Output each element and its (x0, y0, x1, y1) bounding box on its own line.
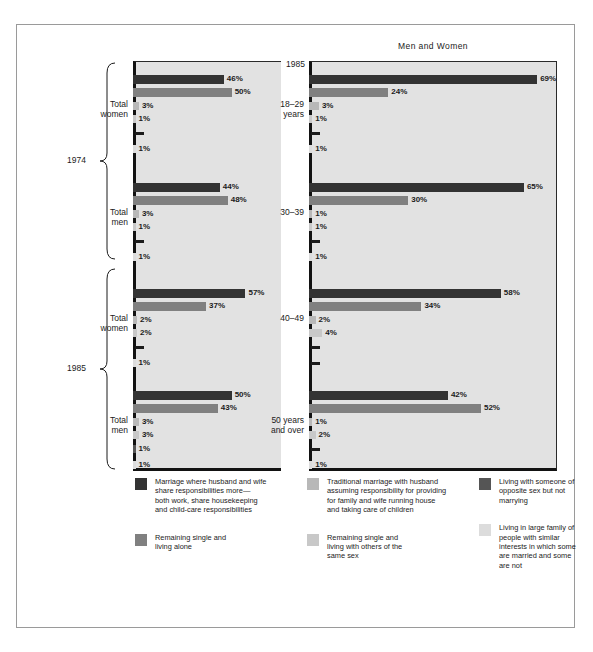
bar-row: 48% (133, 196, 281, 205)
bar (309, 289, 501, 298)
legend-column-3: Living with someone of opposite sex but … (479, 477, 579, 586)
bar-row: 1% (309, 253, 557, 261)
bar-row: 1% (309, 461, 557, 469)
bar-group: 50%43%3%3%1%1% (133, 391, 281, 481)
bar (309, 316, 316, 324)
legend-label: Living with someone of opposite sex but … (499, 477, 579, 505)
era-brace-1985: 1985 (69, 267, 129, 471)
bar-row: 24% (309, 88, 557, 97)
bar (309, 404, 481, 413)
bar-value-label: 69% (540, 74, 556, 83)
legend-swatch-icon (479, 478, 491, 490)
bar (133, 145, 136, 153)
panel-right-year: 1985 (286, 59, 305, 69)
bar-value-label: 3% (142, 430, 154, 439)
zero-dash-mark (135, 240, 144, 243)
bar-row: 46% (133, 75, 281, 84)
bar (133, 391, 232, 400)
bar (133, 88, 232, 97)
bar-row: 2% (309, 431, 557, 439)
bar (133, 183, 220, 192)
era-label-1974: 1974 (67, 155, 86, 165)
bar-value-label: 3% (142, 417, 154, 426)
bar-row: 1% (309, 210, 557, 218)
bar-value-label: 58% (504, 288, 520, 297)
bar-value-label: 3% (322, 101, 334, 110)
bar-row: 1% (133, 223, 281, 231)
bar-value-label: 44% (223, 182, 239, 191)
bar-row (309, 343, 557, 351)
bar (133, 445, 136, 453)
bar (309, 418, 312, 426)
bar-row: 3% (309, 102, 557, 110)
legend-label: Traditional marriage with husband assumi… (327, 477, 475, 515)
bar-row: 44% (133, 183, 281, 192)
category-label: Total men (68, 415, 128, 435)
bar (309, 88, 388, 97)
bar (133, 223, 136, 231)
bar-value-label: 37% (209, 301, 225, 310)
legend-item: Living in large family of people with si… (479, 523, 579, 570)
zero-dash-mark (311, 362, 320, 365)
bar-value-label: 57% (248, 288, 264, 297)
bar-value-label: 1% (315, 114, 327, 123)
chart-frame: 1974 1985 Total women46%50%3%1%1%Total m… (16, 24, 575, 628)
category-label: Total men (68, 207, 128, 227)
legend-swatch-icon (479, 524, 491, 536)
category-label: 30–39 (242, 207, 304, 217)
legend-item: Traditional marriage with husband assumi… (307, 477, 475, 515)
bar-row: 1% (133, 145, 281, 153)
legend-item: Remaining single and living alone (135, 533, 295, 559)
zero-dash-mark (135, 132, 144, 135)
bar-value-label: 48% (231, 195, 247, 204)
bar-row (309, 445, 557, 453)
bar-row: 1% (309, 418, 557, 426)
legend-item: Living with someone of opposite sex but … (479, 477, 579, 505)
bar (133, 461, 136, 469)
legend-swatch-icon (307, 534, 319, 546)
bar-value-label: 1% (139, 252, 151, 261)
bar-value-label: 3% (142, 209, 154, 218)
bar (133, 418, 139, 426)
zero-dash-mark (135, 346, 144, 349)
zero-dash-mark (311, 448, 320, 451)
bar (309, 431, 316, 439)
bar-group: 44%48%3%1%1% (133, 183, 281, 273)
bar (309, 253, 312, 261)
bar-row: 2% (133, 329, 281, 337)
bar-value-label: 1% (139, 114, 151, 123)
bar-value-label: 2% (140, 315, 152, 324)
legend-label: Remaining single and living alone (155, 533, 295, 552)
bar-value-label: 24% (391, 87, 407, 96)
bar-row (133, 237, 281, 245)
legend-swatch-icon (307, 478, 319, 490)
bar-value-label: 2% (319, 315, 331, 324)
bar-row: 37% (133, 302, 281, 311)
bar-value-label: 50% (235, 87, 251, 96)
bar-value-label: 1% (139, 144, 151, 153)
legend-item: Remaining single and living with others … (307, 533, 475, 561)
bar (133, 115, 136, 123)
bar-row: 30% (309, 196, 557, 205)
bar (309, 302, 421, 311)
category-label: 40–49 (242, 313, 304, 323)
bar-row: 57% (133, 289, 281, 298)
bar-row (133, 343, 281, 351)
bar (133, 329, 137, 337)
zero-dash-mark (311, 346, 320, 349)
bar-group: 58%34%2%4% (309, 289, 557, 379)
bar (309, 196, 408, 205)
bar (309, 391, 448, 400)
panel-totals: Total women46%50%3%1%1%Total men44%48%3%… (133, 61, 281, 471)
bar-group: 57%37%2%2%1% (133, 289, 281, 379)
legend-item: Marriage where husband and wife share re… (135, 477, 295, 515)
bar-group: 46%50%3%1%1% (133, 75, 281, 165)
category-label: Total women (68, 99, 128, 119)
bar-row: 69% (309, 75, 557, 84)
bar-value-label: 2% (319, 430, 331, 439)
legend-column-2: Traditional marriage with husband assumi… (307, 477, 475, 577)
bar (309, 115, 312, 123)
bar-value-label: 1% (315, 209, 327, 218)
bar-row: 43% (133, 404, 281, 413)
bar-group: 65%30%1%1%1% (309, 183, 557, 273)
